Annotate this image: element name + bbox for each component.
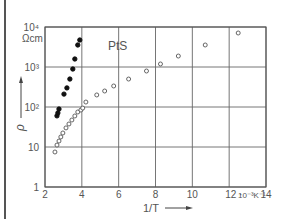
open-data-point (84, 100, 88, 104)
y-tick-label: 1 (33, 182, 39, 193)
open-data-point (144, 69, 148, 73)
open-data-point (112, 84, 116, 88)
filled-data-point (78, 38, 82, 42)
open-data-point (70, 118, 74, 122)
y-unit-label: Ωcm (22, 33, 43, 44)
open-data-point (158, 62, 162, 66)
x-tick-label: 8 (153, 189, 159, 200)
open-data-point (57, 139, 61, 143)
grid (45, 27, 266, 187)
filled-data-point (62, 92, 66, 96)
open-data-point (236, 31, 240, 35)
filled-data-point (73, 57, 77, 61)
filled-data-point (57, 107, 61, 111)
open-data-point (59, 135, 63, 139)
x-tick-label: 4 (79, 189, 85, 200)
open-data-point (61, 131, 65, 135)
open-data-point (103, 89, 107, 93)
open-data-point (203, 43, 207, 47)
x-tick-label: 6 (116, 189, 122, 200)
open-data-point (176, 54, 180, 58)
y-tick-labels: 11010²10³10⁴ (24, 22, 40, 193)
open-data-point (67, 122, 71, 126)
material-annotation: PtS (108, 39, 127, 53)
x-tick-label: 2 (42, 189, 48, 200)
x-unit-label: 10⁻³K⁻¹ (238, 191, 266, 200)
y-tick-label: 10² (25, 102, 40, 113)
x-axis-label-group: 1/T (143, 202, 193, 214)
series-open (53, 31, 240, 154)
x-axis-label: 1/T (143, 202, 159, 214)
open-data-point (55, 143, 59, 147)
open-data-point (64, 126, 68, 130)
filled-data-point (76, 43, 80, 47)
y-tick-label: 10⁴ (24, 22, 39, 33)
open-data-point (81, 106, 85, 110)
x-axis-arrowhead (186, 206, 193, 210)
y-axis-arrowhead (19, 76, 23, 83)
series-filled (55, 38, 82, 118)
filled-data-point (68, 77, 72, 81)
filled-data-point (65, 86, 69, 90)
filled-data-point (71, 67, 75, 71)
open-data-point (127, 77, 131, 81)
open-data-point (53, 150, 57, 154)
data-points (53, 31, 240, 154)
open-data-point (95, 93, 99, 97)
open-data-point (73, 114, 77, 118)
y-axis-label: ρ (13, 124, 27, 132)
y-tick-label: 10 (28, 142, 40, 153)
chart: 24681012 ·14 11010²10³10⁴ PtS Ωcm 10⁻³K⁻… (0, 0, 284, 219)
x-tick-label: 10 (187, 189, 199, 200)
y-tick-label: 10³ (25, 62, 40, 73)
